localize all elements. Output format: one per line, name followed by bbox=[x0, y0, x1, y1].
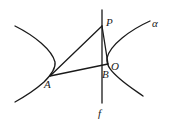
hyperbola-right-branch bbox=[107, 21, 150, 96]
hyperbola-left-branch bbox=[15, 26, 55, 102]
label-P: P bbox=[105, 16, 113, 28]
segment-PO bbox=[102, 26, 108, 64]
label-B: B bbox=[102, 68, 109, 80]
segment-AP bbox=[50, 26, 102, 76]
label-A: A bbox=[43, 78, 51, 90]
label-O: O bbox=[111, 60, 119, 72]
label-f: f bbox=[98, 107, 103, 119]
label-alpha: α bbox=[152, 17, 158, 29]
segment-AO bbox=[50, 64, 108, 76]
hyperbola-diagram: P α O B A f bbox=[0, 0, 169, 129]
